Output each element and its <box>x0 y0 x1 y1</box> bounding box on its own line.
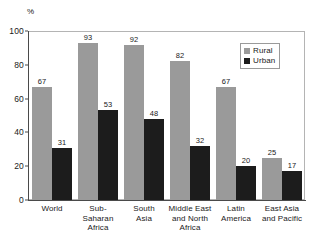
x-axis-category-label-line: Middle East <box>168 204 212 214</box>
bar-value-label: 48 <box>150 110 159 118</box>
bar-slot: 32 <box>190 31 210 200</box>
bar-rural[interactable]: 92 <box>124 45 144 200</box>
y-axis-tick-mark <box>25 64 28 65</box>
bar-urban[interactable]: 17 <box>282 171 302 200</box>
bar-slot: 67 <box>32 31 52 200</box>
y-axis-tick-mark <box>25 31 28 32</box>
bar-value-label: 92 <box>130 36 139 44</box>
x-axis-category-label-line: South <box>122 204 166 214</box>
legend-item[interactable]: Rural <box>244 46 275 56</box>
legend-item-label: Rural <box>253 47 273 55</box>
bar-urban[interactable]: 32 <box>190 146 210 200</box>
bar-rural[interactable]: 93 <box>78 43 98 200</box>
x-axis-category-label: World <box>29 204 75 214</box>
bar-value-label: 93 <box>84 34 93 42</box>
x-axis-category-label-line: Asia <box>122 214 166 224</box>
bar-slot: 92 <box>124 31 144 200</box>
bar-slot: 93 <box>78 31 98 200</box>
bar-slot: 17 <box>282 31 302 200</box>
legend: RuralUrban <box>240 43 280 69</box>
bar-value-label: 20 <box>242 157 251 165</box>
bar-slot: 82 <box>170 31 190 200</box>
x-axis-category-label-line: and North <box>168 214 212 224</box>
bar-urban[interactable]: 53 <box>98 110 118 200</box>
x-axis-category-label: SouthAsia <box>121 204 167 223</box>
bar-rural[interactable]: 82 <box>170 61 190 200</box>
bar-slot: 67 <box>216 31 236 200</box>
bar-urban[interactable]: 48 <box>144 119 164 200</box>
bar-urban[interactable]: 31 <box>52 148 72 200</box>
x-axis-labels: WorldSub-SaharanAfricaSouthAsiaMiddle Ea… <box>29 204 305 233</box>
bar-value-label: 67 <box>38 78 47 86</box>
x-axis-category-label: East Asiaand Pacific <box>259 204 305 223</box>
y-axis-tick-mark <box>25 98 28 99</box>
bar-group: 6731 <box>29 31 75 200</box>
y-axis-tick-mark <box>25 166 28 167</box>
bar-group: 9353 <box>75 31 121 200</box>
x-axis-category-label-line: Africa <box>76 223 120 233</box>
x-axis-category-label-line: Latin <box>214 204 258 214</box>
bar-slot: 53 <box>98 31 118 200</box>
legend-item[interactable]: Urban <box>244 56 275 66</box>
legend-item-label: Urban <box>253 57 275 65</box>
bar-value-label: 31 <box>58 139 67 147</box>
legend-swatch-icon <box>244 58 250 64</box>
bar-value-label: 67 <box>222 78 231 86</box>
y-axis-tick-mark <box>25 132 28 133</box>
bar-group: 9248 <box>121 31 167 200</box>
grouped-bar-chart: % 020406080100 673193539248823267202517 … <box>0 0 315 242</box>
bar-value-label: 32 <box>196 137 205 145</box>
bar-rural[interactable]: 67 <box>216 87 236 200</box>
x-axis-category-label-line: Africa <box>168 223 212 233</box>
legend-swatch-icon <box>244 48 250 54</box>
x-axis-category-label: Sub-SaharanAfrica <box>75 204 121 233</box>
bar-rural[interactable]: 25 <box>262 158 282 200</box>
x-axis-category-label: Middle Eastand NorthAfrica <box>167 204 213 233</box>
bar-group: 8232 <box>167 31 213 200</box>
bar-value-label: 82 <box>176 52 185 60</box>
bar-value-label: 17 <box>288 162 297 170</box>
bar-urban[interactable]: 20 <box>236 166 256 200</box>
x-axis-category-label-line: World <box>30 204 74 214</box>
x-axis-category-label-line: Sub- <box>76 204 120 214</box>
x-axis-category-label-line: and Pacific <box>260 214 304 224</box>
x-axis-category-label-line: Saharan <box>76 214 120 224</box>
bar-rural[interactable]: 67 <box>32 87 52 200</box>
bar-value-label: 53 <box>104 101 113 109</box>
x-axis <box>28 200 306 201</box>
x-axis-category-label-line: East Asia <box>260 204 304 214</box>
x-axis-category-label-line: America <box>214 214 258 224</box>
bar-value-label: 25 <box>268 149 277 157</box>
y-axis-unit-label: % <box>27 8 34 16</box>
x-axis-category-label: LatinAmerica <box>213 204 259 223</box>
bar-slot: 31 <box>52 31 72 200</box>
bar-slot: 48 <box>144 31 164 200</box>
